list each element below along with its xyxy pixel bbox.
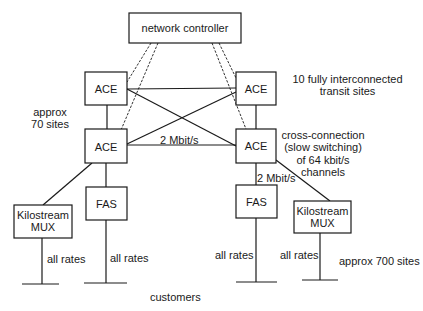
transit-line2: transit sites xyxy=(290,85,405,97)
fas-link-rate-label: 2 Mbit/s xyxy=(257,172,296,184)
approx-700-sites-note: approx 700 sites xyxy=(339,255,420,267)
cross-connection-note: cross-connection (slow switching) of 64 … xyxy=(277,129,369,178)
customers-label: customers xyxy=(150,291,201,303)
core-link-rate-label: 2 Mbit/s xyxy=(160,134,199,146)
all-rates-label-4: all rates xyxy=(280,249,319,261)
network-controller-label: network controller xyxy=(129,22,241,34)
fas-left-label: FAS xyxy=(86,198,127,210)
approx-70-sites-note: approx 70 sites xyxy=(28,106,72,130)
crossconn-line2: (slow switching) xyxy=(277,141,369,153)
all-rates-label-3: all rates xyxy=(215,249,254,261)
all-rates-label-1: all rates xyxy=(47,253,86,265)
mux-left-line2: MUX xyxy=(14,221,72,233)
mux-left-line1: Kilostream xyxy=(14,209,72,221)
mux-right-line2: MUX xyxy=(294,217,351,229)
crossconn-line3: of 64 kbit/s xyxy=(277,154,369,166)
ace-top-left-label: ACE xyxy=(85,83,127,95)
all-rates-label-2: all rates xyxy=(110,252,149,264)
kilostream-mux-right-label: Kilostream MUX xyxy=(294,205,351,229)
approx70-line1: approx xyxy=(28,106,72,118)
kilostream-mux-left-label: Kilostream MUX xyxy=(14,209,72,233)
transit-line1: 10 fully interconnected xyxy=(290,73,405,85)
ace-bottom-right-label: ACE xyxy=(236,140,276,152)
fas-right-label: FAS xyxy=(236,196,277,208)
crossconn-line1: cross-connection xyxy=(277,129,369,141)
ace-top-right-label: ACE xyxy=(236,83,276,95)
transit-sites-note: 10 fully interconnected transit sites xyxy=(290,73,405,97)
approx70-line2: 70 sites xyxy=(28,118,72,130)
mux-right-line1: Kilostream xyxy=(294,205,351,217)
ace-bottom-left-label: ACE xyxy=(85,141,127,153)
